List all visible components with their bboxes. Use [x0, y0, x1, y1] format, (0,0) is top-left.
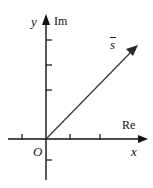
y-axis-arrowhead: [42, 14, 50, 25]
real-axis-label: Re: [122, 119, 135, 131]
x-axis-arrowhead: [138, 135, 148, 143]
vector-symbol: s: [110, 37, 115, 52]
y-axis-variable-label: y: [31, 15, 37, 28]
imaginary-axis-label: Im: [54, 15, 67, 27]
vector-s-arrowhead: [126, 45, 138, 56]
vector-overbar: [110, 37, 116, 38]
vector-s-label: s: [110, 37, 115, 51]
origin-label: O: [33, 145, 42, 158]
diagram-canvas: [0, 0, 153, 188]
x-axis-variable-label: x: [131, 145, 137, 158]
complex-plane-diagram: y Im Re x O s: [0, 0, 153, 188]
vector-s-shaft: [46, 51, 132, 139]
